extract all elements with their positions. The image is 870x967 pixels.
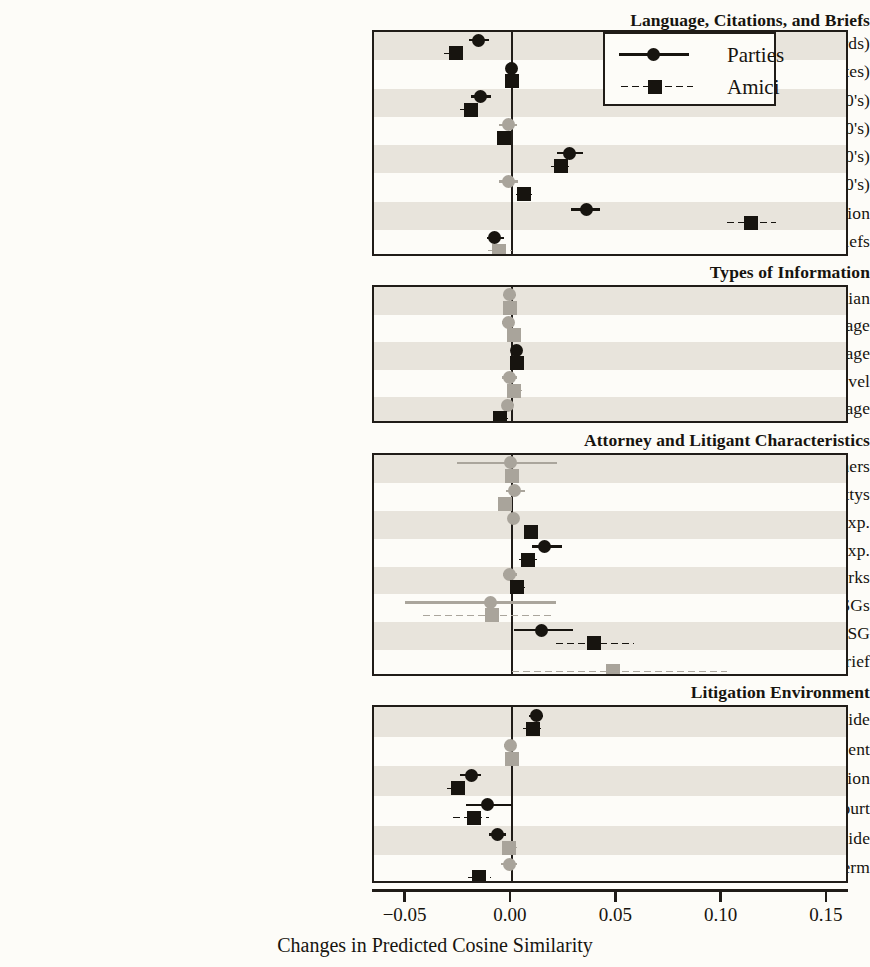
amici-point-estimate	[497, 131, 511, 145]
parties-point-estimate	[580, 203, 593, 216]
parties-point-estimate	[503, 858, 516, 871]
amici-point-estimate	[502, 841, 516, 855]
amici-point-estimate	[606, 664, 620, 676]
row-stripe	[374, 145, 846, 173]
parties-point-estimate	[508, 484, 521, 497]
group-header-1: Language, Citations, and Briefs	[512, 12, 870, 30]
amici-point-estimate	[510, 356, 524, 370]
amici-point-estimate	[485, 608, 499, 622]
parties-point-estimate	[503, 371, 516, 384]
parties-point-estimate	[502, 118, 515, 131]
amici-point-estimate	[507, 328, 521, 342]
amici-point-estimate	[503, 301, 517, 315]
parties-point-estimate	[472, 34, 485, 47]
x-axis-tick	[509, 891, 512, 902]
x-axis-tick	[403, 891, 406, 902]
amici-point-estimate	[517, 187, 531, 201]
legend-entry-amici: Amici	[605, 72, 774, 102]
row-stripe	[374, 622, 846, 650]
parties-point-estimate	[504, 739, 517, 752]
amici-point-estimate	[505, 752, 519, 766]
x-axis-line	[372, 889, 848, 892]
row-stripe	[374, 766, 846, 796]
x-axis-tick-label: 0.10	[704, 904, 737, 926]
amici-point-estimate	[472, 870, 486, 883]
row-stripe	[374, 342, 846, 370]
amici-point-estimate	[451, 781, 465, 795]
x-axis-tick	[719, 891, 722, 902]
row-stripe	[374, 707, 846, 737]
parties-point-estimate	[563, 147, 576, 160]
amici-point-estimate	[510, 580, 524, 594]
amici-point-estimate	[521, 553, 535, 567]
amici-point-estimate	[744, 216, 758, 230]
amici-point-estimate	[524, 525, 538, 539]
group-header-4: Litigation Environment	[512, 684, 870, 702]
chart-panel-3	[372, 453, 848, 676]
legend-label: Parties	[727, 42, 784, 68]
chart-legend: PartiesAmici	[603, 32, 776, 106]
row-stripe	[374, 511, 846, 539]
legend-label: Amici	[727, 74, 780, 100]
row-stripe	[374, 397, 846, 423]
parties-point-estimate	[502, 316, 515, 329]
amici-point-estimate	[493, 411, 507, 423]
legend-entry-parties: Parties	[605, 40, 774, 70]
row-stripe	[374, 202, 846, 230]
parties-point-estimate	[481, 798, 494, 811]
amici-point-estimate	[464, 103, 478, 117]
parties-point-estimate	[488, 231, 501, 244]
amici-point-estimate	[554, 159, 568, 173]
amici-point-estimate	[449, 46, 463, 60]
chart-panel-2	[372, 285, 848, 423]
parties-confidence-interval	[405, 601, 557, 604]
amici-point-estimate	[505, 469, 519, 483]
amici-point-estimate	[467, 811, 481, 825]
parties-point-estimate	[505, 62, 518, 75]
x-axis-tick-label: 0.15	[809, 904, 842, 926]
parties-point-estimate	[501, 399, 514, 412]
x-axis-tick-label: −0.05	[383, 904, 427, 926]
x-axis-tick-label: 0.05	[599, 904, 632, 926]
row-stripe	[374, 826, 846, 856]
parties-point-estimate	[538, 540, 551, 553]
parties-point-estimate	[502, 175, 515, 188]
amici-point-estimate	[526, 722, 540, 736]
group-header-3: Attorney and Litigant Characteristics	[512, 432, 870, 450]
amici-point-estimate	[492, 244, 506, 256]
row-stripe	[374, 567, 846, 595]
parties-point-estimate	[535, 624, 548, 637]
x-axis-title: Changes in Predicted Cosine Similarity	[0, 934, 870, 957]
amici-point-estimate	[498, 497, 512, 511]
coefficient-plot-figure: Language, Citations, and BriefsOverall N…	[0, 0, 870, 967]
legend-circle-icon	[619, 40, 715, 70]
parties-point-estimate	[484, 596, 497, 609]
row-stripe	[374, 455, 846, 483]
parties-point-estimate	[530, 709, 543, 722]
legend-square-icon	[619, 72, 715, 102]
x-axis-tick	[614, 891, 617, 902]
x-axis-tick-label: 0.00	[493, 904, 526, 926]
amici-point-estimate	[505, 74, 519, 88]
x-axis-tick	[825, 891, 828, 902]
amici-point-estimate	[587, 636, 601, 650]
chart-panel-4	[372, 705, 848, 883]
row-stripe	[374, 287, 846, 315]
group-header-2: Types of Information	[512, 264, 870, 282]
zero-reference-line	[511, 707, 513, 881]
parties-point-estimate	[510, 344, 523, 357]
amici-point-estimate	[507, 384, 521, 398]
